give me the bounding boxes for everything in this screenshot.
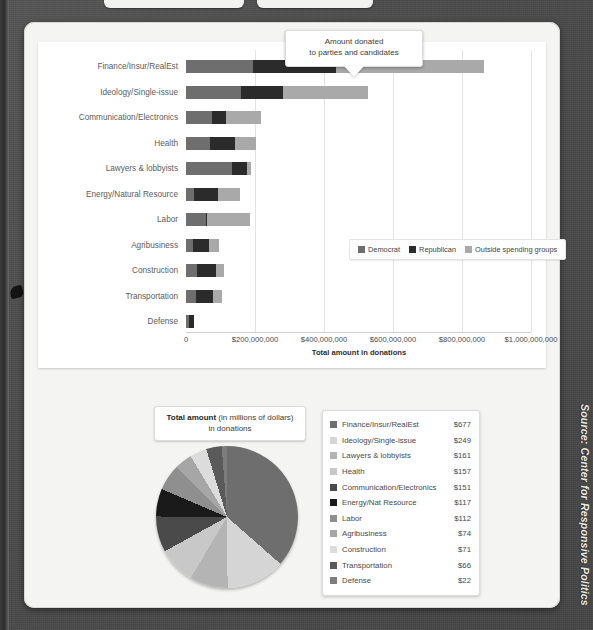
pie-legend-label: Ideology/Single-issue — [342, 436, 441, 445]
bar-chart-category-label: Construction — [48, 266, 178, 275]
legend-swatch-icon — [330, 530, 337, 537]
bar-segment-dem[interactable] — [186, 188, 194, 201]
bar-legend-item: Outside spending groups — [465, 245, 557, 254]
legend-swatch-icon — [330, 515, 337, 522]
bar-legend-label: Democrat — [368, 245, 400, 254]
bar-chart-bar[interactable] — [186, 290, 531, 303]
bar-chart-bar[interactable] — [186, 315, 531, 328]
bar-chart-x-axis-title: Total amount in donations — [186, 348, 532, 357]
pie-chart — [156, 446, 298, 588]
pie-legend-value: $112 — [441, 514, 471, 523]
pie-legend-label: Defense — [342, 576, 441, 585]
pie-legend-value: $161 — [441, 451, 471, 460]
bar-segment-out[interactable] — [283, 86, 368, 99]
bar-segment-rep[interactable] — [197, 264, 215, 277]
bar-chart-bar[interactable] — [186, 162, 531, 175]
pie-legend-value: $71 — [441, 545, 471, 554]
pie-legend-value: $22 — [441, 576, 471, 585]
bar-chart-x-tick-label: $600,000,000 — [370, 335, 416, 344]
bar-chart-bar[interactable] — [186, 111, 531, 124]
legend-swatch-icon — [330, 468, 337, 475]
bar-segment-dem[interactable] — [186, 213, 206, 226]
bar-segment-out[interactable] — [247, 162, 251, 175]
pie-chart-graphic — [156, 446, 298, 588]
bar-chart-gridline — [531, 50, 532, 332]
pie-legend-value: $117 — [441, 498, 471, 507]
pie-legend-row: Lawyers & lobbyists$161 — [330, 448, 471, 464]
bar-segment-rep[interactable] — [193, 239, 209, 252]
pie-legend-row: Ideology/Single-issue$249 — [330, 433, 471, 449]
pie-legend-value: $677 — [441, 420, 471, 429]
bar-segment-dem[interactable] — [186, 264, 197, 277]
bar-segment-rep[interactable] — [232, 162, 248, 175]
pie-legend-value: $151 — [441, 483, 471, 492]
pie-title-strong: Total amount — [167, 413, 217, 422]
bar-chart-legend: DemocratRepublicanOutside spending group… — [349, 239, 566, 260]
bar-segment-rep[interactable] — [194, 188, 218, 201]
bar-chart-bar[interactable] — [186, 86, 531, 99]
legend-swatch-icon — [330, 421, 337, 428]
bar-legend-label: Outside spending groups — [475, 245, 557, 254]
pie-legend-label: Lawyers & lobbyists — [342, 451, 441, 460]
bar-segment-rep[interactable] — [210, 137, 235, 150]
bar-segment-dem[interactable] — [186, 290, 196, 303]
pie-legend-value: $66 — [441, 561, 471, 570]
pie-legend-label: Construction — [342, 545, 441, 554]
pie-legend-value: $74 — [441, 529, 471, 538]
bar-segment-dem[interactable] — [186, 162, 232, 175]
bar-chart-category-label: Communication/Electronics — [48, 113, 178, 122]
bar-chart-bar[interactable] — [186, 213, 531, 226]
bar-segment-out[interactable] — [209, 239, 219, 252]
bar-chart-panel: 0$200,000,000$400,000,000$600,000,000$80… — [38, 42, 546, 368]
bar-segment-out[interactable] — [226, 111, 262, 124]
bar-segment-out[interactable] — [213, 290, 222, 303]
bar-segment-dem[interactable] — [186, 86, 241, 99]
top-tab-left — [104, 0, 244, 8]
bar-chart-category-label: Defense — [48, 317, 178, 326]
pie-legend-label: Finance/Insur/RealEst — [342, 420, 441, 429]
pie-legend-row: Finance/Insur/RealEst$677 — [330, 417, 471, 433]
bar-segment-dem[interactable] — [186, 111, 212, 124]
bar-chart-x-tick-label: $400,000,000 — [301, 335, 347, 344]
legend-swatch-icon — [330, 499, 337, 506]
legend-swatch-icon — [358, 246, 365, 253]
pie-legend-row: Agribusiness$74 — [330, 526, 471, 542]
bar-segment-dem[interactable] — [186, 137, 210, 150]
bar-chart-x-axis-line — [186, 332, 531, 333]
callout-line-1: Amount donated — [325, 37, 384, 46]
bar-chart-bar[interactable] — [186, 264, 531, 277]
bar-segment-dem[interactable] — [186, 60, 253, 73]
legend-swatch-icon — [330, 452, 337, 459]
bar-legend-item: Republican — [409, 245, 456, 254]
bar-chart-x-tick-label: $1,000,000,000 — [505, 335, 558, 344]
source-attribution: Source: Center for Responsive Politics — [579, 404, 591, 606]
bar-segment-out[interactable] — [235, 137, 256, 150]
pie-legend-label: Transportation — [342, 561, 441, 570]
pie-chart-legend: Finance/Insur/RealEst$677Ideology/Single… — [322, 410, 480, 596]
bar-chart-category-label: Transportation — [48, 292, 178, 301]
legend-swatch-icon — [330, 562, 337, 569]
bar-chart-x-tick-label: $200,000,000 — [232, 335, 278, 344]
bar-segment-rep[interactable] — [212, 111, 226, 124]
bar-chart-x-tick-label: 0 — [184, 335, 188, 344]
bar-segment-out[interactable] — [218, 188, 240, 201]
pie-title-line-2: in donations — [208, 424, 251, 433]
pie-legend-row: Defense$22 — [330, 573, 471, 589]
bar-chart-bar[interactable] — [186, 188, 531, 201]
bar-segment-rep[interactable] — [241, 86, 282, 99]
pie-legend-label: Labor — [342, 514, 441, 523]
top-tab-right — [257, 0, 373, 8]
bar-legend-label: Republican — [419, 245, 456, 254]
pie-title-rest: (in millions of dollars) — [218, 413, 293, 422]
bar-segment-rep[interactable] — [189, 315, 194, 328]
legend-swatch-icon — [330, 484, 337, 491]
infographic-card: 0$200,000,000$400,000,000$600,000,000$80… — [24, 22, 560, 608]
pie-legend-value: $249 — [441, 436, 471, 445]
bar-segment-rep[interactable] — [196, 290, 213, 303]
bar-chart-bar[interactable] — [186, 137, 531, 150]
bar-segment-out[interactable] — [207, 213, 249, 226]
pie-chart-title: Total amount (in millions of dollars) in… — [154, 406, 306, 441]
pie-legend-label: Agribusiness — [342, 529, 441, 538]
pie-legend-row: Labor$112 — [330, 511, 471, 527]
bar-segment-out[interactable] — [216, 264, 224, 277]
